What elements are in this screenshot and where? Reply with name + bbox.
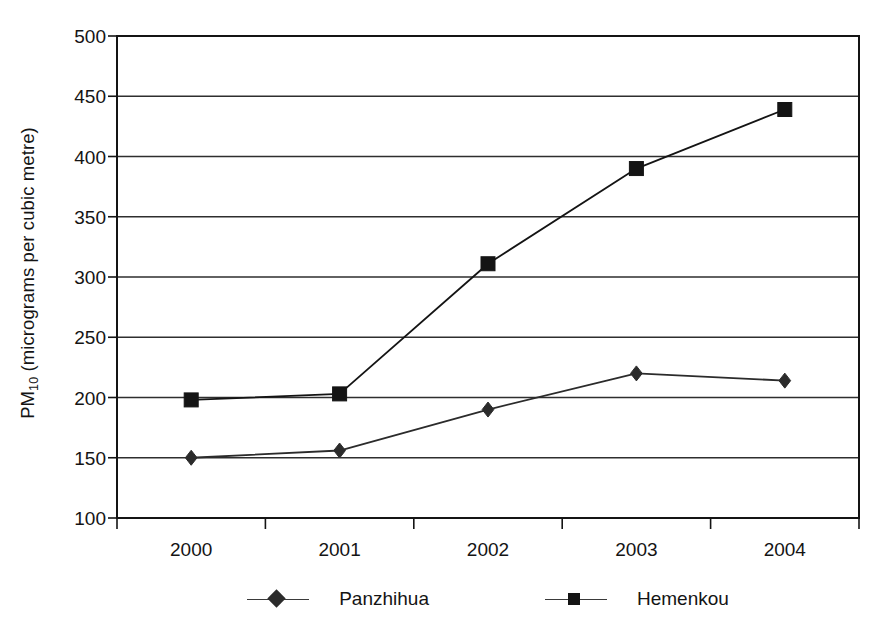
legend-label: Panzhihua — [339, 588, 429, 610]
diamond-marker-icon — [482, 402, 494, 417]
square-marker-icon — [481, 257, 495, 271]
diamond-marker-icon — [779, 373, 791, 388]
square-marker-icon — [184, 393, 198, 407]
square-marker-icon — [629, 162, 643, 176]
legend-entry-panzhihua[interactable]: Panzhihua — [247, 588, 429, 610]
diamond-marker-icon — [631, 366, 643, 381]
square-marker-icon — [568, 593, 580, 605]
plot-area — [0, 0, 887, 634]
series-panzhihua — [185, 366, 790, 465]
legend-entry-hemenkou[interactable]: Hemenkou — [545, 588, 729, 610]
diamond-marker-icon — [334, 443, 346, 458]
diamond-marker-icon — [267, 589, 285, 607]
square-marker-icon — [778, 103, 792, 117]
legend-sample — [247, 589, 309, 609]
legend-label: Hemenkou — [637, 588, 729, 610]
legend-sample — [545, 589, 607, 609]
series-hemenkou — [184, 103, 792, 407]
line-chart: PM10 (micrograms per cubic metre) 500450… — [0, 0, 887, 634]
series-line — [191, 110, 785, 400]
chart-legend: PanzhihuaHemenkou — [117, 582, 859, 616]
diamond-marker-icon — [185, 450, 197, 465]
square-marker-icon — [333, 387, 347, 401]
axis-ticks — [108, 36, 859, 529]
